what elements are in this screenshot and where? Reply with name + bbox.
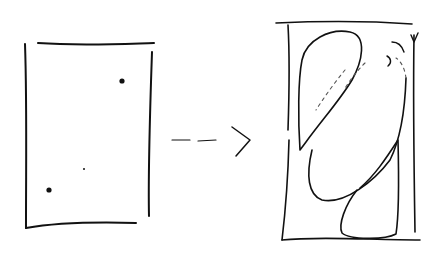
loop-top-left [299, 31, 362, 150]
small-curl [387, 56, 391, 66]
diagonal-ellipse [309, 78, 406, 201]
loop-bottom-right [341, 140, 399, 238]
left-rectangle [25, 43, 154, 228]
point-bottom-left [46, 187, 51, 192]
small-arc-top-right [392, 42, 404, 52]
point-top-right [119, 78, 124, 83]
sketch-canvas [0, 0, 432, 256]
point-center-small [83, 168, 85, 170]
arrow-right-icon [172, 127, 250, 156]
